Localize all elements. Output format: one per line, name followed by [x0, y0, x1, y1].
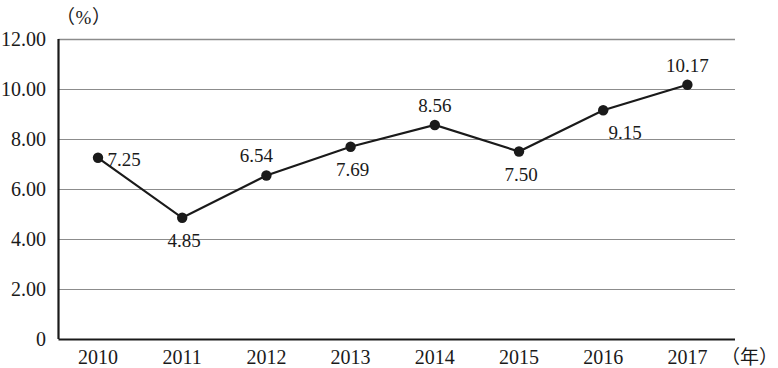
data-point-marker: [261, 170, 271, 180]
x-axis-tick-label: 2011: [163, 347, 202, 367]
data-point-value-label: 10.17: [666, 56, 709, 75]
x-axis-tick-label: 2014: [415, 347, 455, 367]
data-point-value-label: 7.50: [504, 165, 537, 184]
data-point-markers: [93, 80, 693, 223]
data-series-line: [98, 85, 687, 218]
plot-area: [0, 0, 778, 368]
x-axis-tick-label: 2010: [78, 347, 118, 367]
data-point-value-label: 8.56: [418, 96, 451, 115]
x-axis-tick-label: 2013: [331, 347, 371, 367]
data-point-marker: [430, 120, 440, 130]
data-point-value-label: 6.54: [240, 146, 273, 165]
data-point-marker: [345, 142, 355, 152]
gridlines: [59, 40, 736, 290]
data-point-value-label: 7.69: [336, 160, 369, 179]
x-axis-tick-label: 2012: [246, 347, 286, 367]
data-point-marker: [177, 213, 187, 223]
data-point-marker: [93, 153, 103, 163]
line-chart: （%） 02.004.006.008.0010.0012.00 20102011…: [0, 0, 778, 368]
data-point-value-label: 4.85: [168, 231, 201, 250]
data-point-marker: [682, 80, 692, 90]
data-point-value-label: 7.25: [107, 150, 140, 169]
x-axis-tick-label: 2017: [667, 347, 707, 367]
data-point-value-label: 9.15: [609, 123, 642, 142]
x-axis-tick-label: 2016: [583, 347, 623, 367]
data-point-marker: [514, 146, 524, 156]
x-axis-unit-label: （年）: [721, 348, 778, 367]
data-point-marker: [598, 105, 608, 115]
x-axis-tick-label: 2015: [499, 347, 539, 367]
